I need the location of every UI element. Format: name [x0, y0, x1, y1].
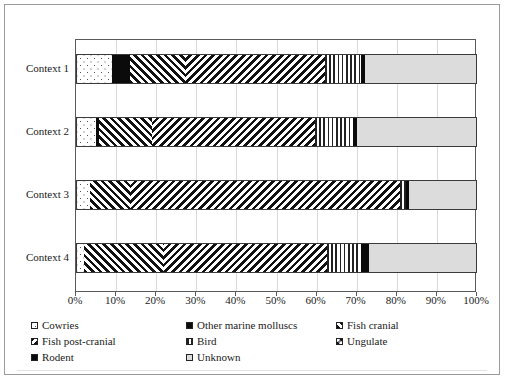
bar-segment-bird	[325, 54, 362, 84]
bar-segment-cowries	[76, 243, 84, 273]
legend-swatch-icon	[31, 354, 38, 361]
bar-segment-fish-post-cranial	[186, 54, 324, 84]
x-axis-tick	[476, 292, 477, 296]
bar-segment-bird	[315, 117, 353, 147]
legend-item-unknown[interactable]: Unknown	[186, 349, 336, 365]
legend-item-cowries[interactable]: Cowries	[31, 317, 186, 333]
bar-segment-fish-cranial	[84, 243, 164, 273]
x-axis-tick	[316, 292, 317, 296]
bar-segment-other-marine-molluscs	[112, 54, 130, 84]
bar-segment-fish-post-cranial	[152, 117, 314, 147]
bar-segment-fish-post-cranial	[164, 243, 327, 273]
stacked-bar	[76, 54, 477, 84]
legend-label: Other marine molluscs	[197, 319, 297, 331]
legend-item-ungulate[interactable]: Ungulate	[336, 333, 466, 349]
legend-item-fish-post-cranial[interactable]: Fish post-cranial	[31, 333, 186, 349]
legend-label: Fish post-cranial	[42, 335, 116, 347]
legend: CowriesOther marine molluscsFish cranial…	[31, 317, 475, 367]
legend-swatch-icon	[186, 322, 193, 329]
legend-label: Cowries	[42, 319, 79, 331]
y-axis-labels: Context 1Context 2Context 3Context 4	[5, 39, 75, 292]
y-axis-label-3: Context 3	[26, 188, 69, 200]
bar-segment-fish-post-cranial	[130, 180, 400, 210]
legend-divider	[17, 370, 487, 371]
legend-spacer	[336, 349, 466, 365]
bar-row	[76, 243, 475, 273]
x-axis-tick	[155, 292, 156, 296]
legend-label: Unknown	[197, 351, 240, 363]
legend-swatch-icon	[336, 322, 343, 329]
legend-item-rodent[interactable]: Rodent	[31, 349, 186, 365]
x-axis-tick	[356, 292, 357, 296]
x-axis-tick	[396, 292, 397, 296]
legend-swatch-icon	[31, 338, 38, 345]
bar-segment-unknown	[409, 180, 477, 210]
legend-swatch-icon	[186, 338, 193, 345]
bar-segment-cowries	[76, 180, 90, 210]
x-axis-tick	[115, 292, 116, 296]
x-axis-tick	[235, 292, 236, 296]
bar-segment-bird	[327, 243, 361, 273]
legend-label: Fish cranial	[347, 319, 399, 331]
legend-label: Ungulate	[347, 335, 387, 347]
bar-segment-fish-cranial	[99, 117, 152, 147]
legend-swatch-icon	[336, 338, 343, 345]
x-axis-tick	[276, 292, 277, 296]
bar-row	[76, 117, 475, 147]
bar-segment-unknown	[365, 54, 476, 84]
stacked-bar	[76, 243, 477, 273]
bar-segment-cowries	[76, 117, 96, 147]
stacked-bar	[76, 117, 477, 147]
y-axis-label-4: Context 4	[26, 251, 69, 263]
stacked-bar	[76, 180, 477, 210]
bar-segment-unknown	[369, 243, 477, 273]
legend-swatch-icon	[31, 322, 38, 329]
bar-segment-fish-cranial	[90, 180, 130, 210]
legend-swatch-icon	[186, 354, 193, 361]
legend-label: Bird	[197, 335, 217, 347]
legend-item-bird[interactable]: Bird	[186, 333, 336, 349]
legend-label: Rodent	[42, 351, 74, 363]
y-axis-label-1: Context 1	[26, 62, 69, 74]
x-axis-tick	[75, 292, 76, 296]
bar-segment-rodent	[361, 243, 369, 273]
x-axis-tick	[195, 292, 196, 296]
y-axis-label-2: Context 2	[26, 125, 69, 137]
bar-segment-fish-cranial	[130, 54, 186, 84]
x-axis-labels: 0%10%20%30%40%50%60%70%80%90%100%	[75, 294, 476, 310]
bar-row	[76, 54, 475, 84]
bar-segment-unknown	[357, 117, 477, 147]
bar-row	[76, 180, 475, 210]
plot-area	[75, 39, 476, 292]
figure-frame: Context 1Context 2Context 3Context 4 0%1…	[4, 4, 500, 375]
legend-item-fish-cranial[interactable]: Fish cranial	[336, 317, 466, 333]
legend-item-other-marine-molluscs[interactable]: Other marine molluscs	[186, 317, 336, 333]
bar-segment-cowries	[76, 54, 112, 84]
x-axis-tick	[436, 292, 437, 296]
